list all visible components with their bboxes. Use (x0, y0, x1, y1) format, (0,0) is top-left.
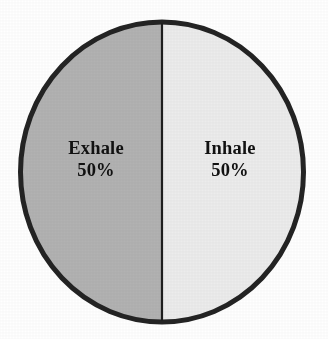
pie-slice-label-exhale: Exhale 50% (36, 138, 156, 182)
pie-chart-figure: Exhale 50% Inhale 50% (0, 0, 328, 339)
pie-slice-label-inhale-value: 50% (170, 160, 290, 181)
pie-slice-label-inhale-name: Inhale (170, 138, 290, 159)
pie-slice-label-exhale-value: 50% (36, 160, 156, 181)
pie-slice-label-inhale: Inhale 50% (170, 138, 290, 182)
pie-slice-label-exhale-name: Exhale (36, 138, 156, 159)
